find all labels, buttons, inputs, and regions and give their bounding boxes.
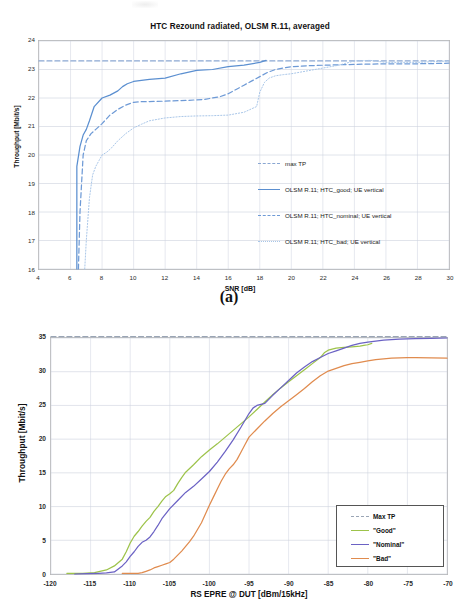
legend-item: "Nominal" — [351, 541, 404, 548]
x-tick-label: -90 — [274, 580, 304, 587]
y-tick-label: 18 — [13, 209, 35, 216]
x-tick-label: 22 — [311, 274, 335, 281]
x-tick-label: 24 — [343, 274, 367, 281]
x-tick-label: -95 — [234, 580, 264, 587]
x-tick-label: 10 — [121, 274, 145, 281]
x-tick-label: 4 — [26, 274, 50, 281]
y-tick-label: 10 — [22, 503, 46, 510]
y-tick-label: 16 — [13, 266, 35, 273]
x-tick-label: 30 — [438, 274, 458, 281]
legend-key-icon — [258, 215, 280, 217]
legend-key-icon — [258, 241, 280, 243]
legend-key-icon — [351, 544, 369, 546]
y-tick-label: 5 — [22, 537, 46, 544]
chart-a-title: HTC Rezound radiated, OLSM R.11, average… — [40, 22, 440, 31]
x-tick-label: 12 — [153, 274, 177, 281]
legend-label: OLSM R.11; HTC_good; UE vertical — [285, 186, 384, 193]
x-tick-label: -110 — [115, 580, 145, 587]
y-tick-label: 24 — [13, 36, 35, 43]
x-tick-label: 6 — [58, 274, 82, 281]
x-tick-label: -115 — [75, 580, 105, 587]
x-tick-label: 18 — [248, 274, 272, 281]
chart-b-x-axis-label: RS EPRE @ DUT [dBm/15kHz] — [129, 590, 369, 599]
y-tick-label: 30 — [22, 367, 46, 374]
x-tick-label: 28 — [406, 274, 430, 281]
x-tick-label: -105 — [154, 580, 184, 587]
x-tick-label: 16 — [216, 274, 240, 281]
legend-item: OLSM R.11; HTC_bad; UE vertical — [258, 238, 380, 245]
y-tick-label: 35 — [22, 333, 46, 340]
legend-key-icon — [351, 558, 369, 560]
chart-a-legend: max TPOLSM R.11; HTC_good; UE verticalOL… — [258, 158, 458, 258]
legend-label: "Good" — [373, 527, 396, 534]
legend-key-icon — [351, 530, 369, 532]
legend-item: max TP — [258, 160, 306, 167]
series-line — [77, 60, 266, 269]
x-tick-label: 8 — [89, 274, 113, 281]
legend-label: OLSM R.11; HTC_bad; UE vertical — [285, 238, 380, 245]
y-tick-label: 21 — [13, 122, 35, 129]
legend-item: "Bad" — [351, 555, 391, 562]
legend-label: max TP — [285, 160, 306, 167]
y-tick-label: 17 — [13, 237, 35, 244]
x-tick-label: -75 — [393, 580, 423, 587]
legend-item: OLSM R.11; HTC_good; UE vertical — [258, 186, 384, 193]
y-tick-label: 23 — [13, 65, 35, 72]
x-tick-label: -70 — [433, 580, 458, 587]
figure-container: HTC Rezound radiated, OLSM R.11, average… — [0, 0, 458, 604]
scan-artifact — [132, 1, 158, 8]
legend-label: "Nominal" — [373, 541, 404, 548]
y-tick-label: 19 — [13, 180, 35, 187]
x-tick-label: -80 — [353, 580, 383, 587]
x-tick-label: -120 — [35, 580, 65, 587]
legend-label: OLSM R.11; HTC_nominal; UE vertical — [285, 212, 391, 219]
legend-item: OLSM R.11; HTC_nominal; UE vertical — [258, 212, 391, 219]
y-tick-label: 15 — [22, 469, 46, 476]
y-tick-label: 20 — [13, 151, 35, 158]
legend-key-icon — [258, 189, 280, 191]
y-tick-label: 20 — [22, 435, 46, 442]
panel-a-label: (a) — [0, 288, 458, 306]
y-tick-label: 22 — [13, 94, 35, 101]
y-tick-label: 0 — [22, 571, 46, 578]
x-tick-label: -100 — [194, 580, 224, 587]
legend-item: Max TP — [351, 513, 395, 520]
legend-label: "Bad" — [373, 555, 391, 562]
legend-key-icon — [351, 516, 369, 518]
y-tick-label: 25 — [22, 401, 46, 408]
chart-b-legend: Max TP"Good""Nominal""Bad" — [336, 505, 444, 567]
x-tick-label: -85 — [314, 580, 344, 587]
x-tick-label: 14 — [184, 274, 208, 281]
legend-label: Max TP — [373, 513, 395, 520]
legend-key-icon — [258, 163, 280, 165]
chart-a: HTC Rezound radiated, OLSM R.11, average… — [0, 8, 458, 308]
x-tick-label: 26 — [375, 274, 399, 281]
legend-item: "Good" — [351, 527, 396, 534]
x-tick-label: 20 — [280, 274, 304, 281]
